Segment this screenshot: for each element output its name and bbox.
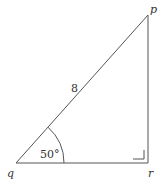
- hypotenuse-length-label: 8: [71, 82, 78, 95]
- triangle-diagram: p q r 8 50°: [0, 0, 165, 183]
- angle-q-label: 50°: [40, 148, 60, 161]
- side-qp: [16, 15, 148, 163]
- vertex-label-r: r: [148, 167, 154, 180]
- right-angle-marker: [133, 150, 144, 159]
- vertex-label-q: q: [7, 167, 14, 180]
- vertex-label-p: p: [150, 3, 157, 16]
